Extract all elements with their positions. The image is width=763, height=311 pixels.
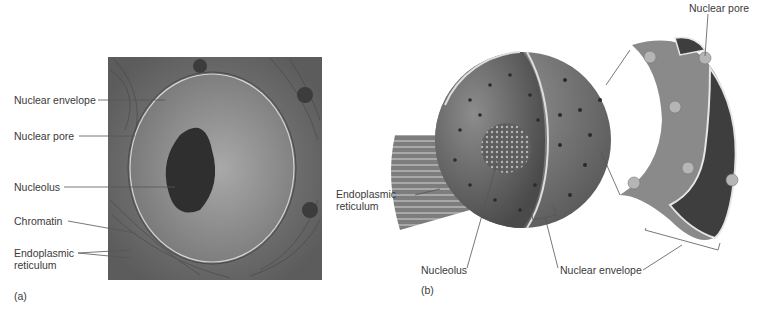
- nucleus-sphere: [435, 52, 611, 228]
- micrograph: [108, 57, 322, 280]
- label-b-nuclear-pore: Nuclear pore: [689, 2, 749, 14]
- label-a-nucleolus: Nucleolus: [14, 181, 60, 193]
- label-b-er-line2: reticulum: [336, 200, 379, 212]
- label-a-er-line2: reticulum: [14, 259, 57, 271]
- label-b-nucleolus: Nucleolus: [421, 264, 467, 276]
- panel-a-tag: (a): [14, 290, 27, 302]
- figure-artwork: [0, 0, 763, 311]
- label-b-er-line1: Endoplasmic: [336, 188, 396, 200]
- label-b-nuclear-envelope: Nuclear envelope: [560, 264, 642, 276]
- label-a-chromatin: Chromatin: [14, 215, 62, 227]
- label-a-er-line1: Endoplasmic: [14, 247, 74, 259]
- envelope-section: [620, 38, 738, 241]
- label-a-nuclear-envelope: Nuclear envelope: [14, 94, 96, 106]
- panel-b-tag: (b): [421, 284, 434, 296]
- label-a-nuclear-pore: Nuclear pore: [14, 130, 74, 142]
